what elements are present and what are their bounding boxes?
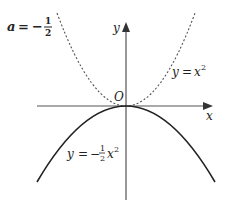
svg-text:−: − xyxy=(32,19,43,34)
parabola-diagram: a = − 1 2 y x O y = x 2 y = − 1 2 x 2 xyxy=(0,0,226,205)
svg-text:x: x xyxy=(107,147,114,161)
svg-text:2: 2 xyxy=(201,63,206,72)
svg-text:2: 2 xyxy=(45,28,51,38)
parameter-label: a = − 1 2 xyxy=(7,16,52,38)
svg-text:y: y xyxy=(171,65,179,79)
svg-text:1: 1 xyxy=(100,144,105,153)
svg-text:−: − xyxy=(90,147,100,161)
curve-label-neg-half-x-squared: y = − 1 2 x 2 xyxy=(66,144,119,163)
svg-text:a: a xyxy=(7,19,15,34)
x-axis-label: x xyxy=(206,109,213,123)
svg-text:x: x xyxy=(194,65,201,79)
svg-text:=: = xyxy=(182,65,192,79)
svg-text:2: 2 xyxy=(100,154,105,163)
svg-text:2: 2 xyxy=(114,145,119,154)
curve-label-x-squared: y = x 2 xyxy=(171,63,206,79)
svg-text:=: = xyxy=(78,147,88,161)
svg-text:=: = xyxy=(18,19,29,34)
svg-text:1: 1 xyxy=(45,16,51,26)
origin-label: O xyxy=(114,90,124,104)
svg-text:y: y xyxy=(66,147,74,161)
y-axis-arrow-icon xyxy=(122,22,130,32)
y-axis-label: y xyxy=(112,21,120,35)
